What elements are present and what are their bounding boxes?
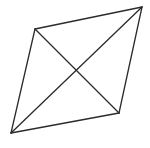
parallelogram-diagonals <box>11 7 142 133</box>
edge-top-left-to-top-right <box>35 7 142 29</box>
parallelogram-diagram <box>0 0 150 148</box>
edge-top-right-to-bottom-right <box>119 7 142 113</box>
diagonal-bottom-left-to-top-right <box>11 7 142 133</box>
edge-bottom-right-to-bottom-left <box>11 113 119 133</box>
edge-bottom-left-to-top-left <box>11 29 35 133</box>
